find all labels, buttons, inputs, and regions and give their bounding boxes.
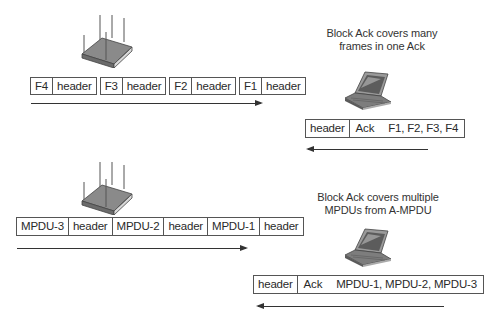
frame-header: header (191, 78, 235, 94)
data-frame-f2: F2 header (169, 77, 236, 95)
frame-payload: F1 (240, 78, 261, 94)
frame-payload: F3 (101, 78, 122, 94)
mpdu-header: header (163, 218, 207, 235)
mpdu-payload: MPDU-1 (207, 218, 259, 235)
ack-content: Ack MPDU-1, MPDU-2, MPDU-3 (297, 276, 483, 293)
data-frame-f3: F3 header (100, 77, 167, 95)
block-ack-frame: header Ack MPDU-1, MPDU-2, MPDU-3 (253, 275, 484, 294)
frame-header: header (122, 78, 166, 94)
ampdu-row: MPDU-3 header MPDU-2 header MPDU-1 heade… (16, 217, 304, 236)
caption-line-2: MPDUs from A-MPDU (314, 204, 442, 217)
caption-block-ack-mpdus: Block Ack covers multiple MPDUs from A-M… (314, 191, 442, 217)
ack-label: Ack (356, 122, 375, 134)
laptop-icon (343, 68, 399, 110)
ack-covers: F1, F2, F3, F4 (388, 122, 458, 134)
caption-block-ack-frames: Block Ack covers many frames in one Ack (318, 27, 446, 53)
arrow-left-ack (308, 149, 428, 150)
mpdu-payload: MPDU-3 (17, 218, 68, 235)
mpdu-header: header (68, 218, 112, 235)
frame-header: header (261, 78, 305, 94)
access-point-icon (80, 10, 136, 68)
block-ack-frame: header Ack F1, F2, F3, F4 (305, 119, 465, 138)
caption-line-1: Block Ack covers many (318, 27, 446, 40)
arrow-right-data (31, 103, 261, 104)
caption-line-2: frames in one Ack (318, 40, 446, 53)
access-point-icon (80, 157, 136, 215)
data-frame-f1: F1 header (239, 77, 306, 95)
ack-covers: MPDU-1, MPDU-2, MPDU-3 (336, 278, 477, 290)
arrow-right-ampdu (17, 248, 246, 249)
frame-payload: F2 (170, 78, 191, 94)
mpdu-payload: MPDU-2 (112, 218, 164, 235)
ack-header: header (254, 276, 297, 293)
laptop-icon (343, 225, 399, 267)
ack-header: header (306, 120, 349, 137)
frame-payload: F4 (31, 78, 52, 94)
arrow-left-ack (258, 306, 444, 307)
frame-header: header (52, 78, 96, 94)
data-frames-row: F4 header F3 header F2 header F1 header (30, 77, 306, 95)
ack-content: Ack F1, F2, F3, F4 (349, 120, 465, 137)
caption-line-1: Block Ack covers multiple (314, 191, 442, 204)
data-frame-f4: F4 header (30, 77, 97, 95)
ack-label: Ack (304, 278, 323, 290)
mpdu-header: header (259, 218, 303, 235)
